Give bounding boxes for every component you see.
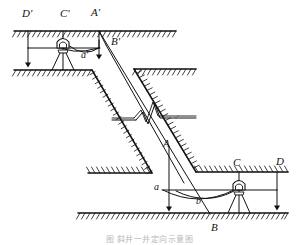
label-B: B <box>211 222 218 233</box>
label-D-prime: D' <box>22 8 32 19</box>
shaft-right-wall <box>134 69 199 172</box>
break-symbol <box>112 102 196 124</box>
tripod-surface-C-prime <box>52 39 74 71</box>
shaft-left-wall <box>90 70 152 174</box>
label-C: C <box>233 157 240 168</box>
label-b: b <box>196 196 201 206</box>
label-A-prime: A' <box>91 7 100 18</box>
tripod-underground-C <box>228 181 250 214</box>
underground-upper-bench-hatching <box>133 69 197 75</box>
label-a-prime: a' <box>81 50 88 60</box>
underground-upper-bench-line <box>133 69 197 75</box>
underground-floor-line <box>77 213 289 219</box>
underground-left-roof-hatching <box>87 167 151 173</box>
surface-bench-ground-line <box>13 70 93 76</box>
surface-ground-line <box>13 31 177 37</box>
label-a: a <box>154 182 159 192</box>
underground-left-roof-line <box>87 167 153 173</box>
underground-right-roof-line <box>195 166 289 172</box>
label-C-prime: C' <box>60 8 70 19</box>
surface-bench-hatching <box>13 70 92 76</box>
label-A: A <box>163 138 170 149</box>
label-D: D <box>276 156 284 167</box>
diagram-canvas <box>0 0 299 245</box>
surface-ground-hatching <box>13 31 177 37</box>
figure-caption: 图 斜井一井定向示意图 <box>0 233 299 244</box>
figure-inclined-shaft-survey: D' C' A' B' a' A a b B C D 图 斜井一井定向示意图 <box>0 0 299 245</box>
underground-right-roof-hatching <box>195 166 289 172</box>
underground-floor-hatching <box>77 213 289 219</box>
label-B-prime: B' <box>111 36 120 47</box>
